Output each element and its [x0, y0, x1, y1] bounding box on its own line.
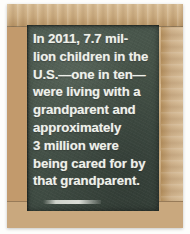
chalk-line: In 2011, 7.7 mil-	[33, 30, 159, 48]
frame-top-rail	[7, 4, 183, 27]
chalk-line: approximately	[33, 119, 159, 137]
chalk-line: were living with a	[33, 83, 159, 101]
chalkboard-message: In 2011, 7.7 mil- lion children in the U…	[33, 30, 159, 190]
chalk-eraser-mark	[43, 200, 101, 204]
chalk-line: lion children in the	[33, 48, 159, 66]
chalk-line: 3 million were	[33, 137, 159, 155]
chalkboard-image: In 2011, 7.7 mil- lion children in the U…	[0, 0, 190, 234]
green-chalkboard: In 2011, 7.7 mil- lion children in the U…	[27, 25, 159, 211]
frame-right-rail	[161, 4, 183, 228]
chalk-line: U.S.—one in ten—	[33, 66, 159, 84]
chalk-line: that grandparent.	[33, 172, 159, 190]
chalk-line: grandparent and	[33, 101, 159, 119]
chalk-line: being cared for by	[33, 155, 159, 173]
